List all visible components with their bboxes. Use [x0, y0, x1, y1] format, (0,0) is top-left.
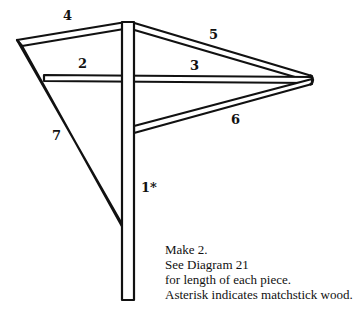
note-length: for length of each piece.	[165, 272, 353, 287]
label-piece-3: 3	[190, 58, 199, 73]
diagram-canvas: 4 5 2 3 6 7 1* Make 2. See Diagram 21 fo…	[0, 0, 363, 318]
label-piece-2: 2	[78, 56, 87, 71]
piece-6	[134, 79, 312, 133]
piece-4	[17, 22, 130, 46]
label-piece-5: 5	[209, 27, 218, 42]
label-piece-7: 7	[52, 128, 61, 143]
piece-7	[17, 40, 124, 230]
label-piece-6: 6	[231, 112, 240, 127]
label-piece-4: 4	[63, 8, 72, 23]
piece-2-3	[44, 75, 312, 83]
piece-5	[131, 22, 312, 82]
note-asterisk: Asterisk indicates matchstick wood.	[165, 287, 353, 302]
instruction-notes: Make 2. See Diagram 21 for length of eac…	[165, 242, 353, 302]
note-make: Make 2.	[165, 242, 353, 257]
piece-1	[122, 22, 134, 300]
note-see-diagram: See Diagram 21	[165, 257, 353, 272]
label-piece-1: 1*	[141, 180, 157, 195]
